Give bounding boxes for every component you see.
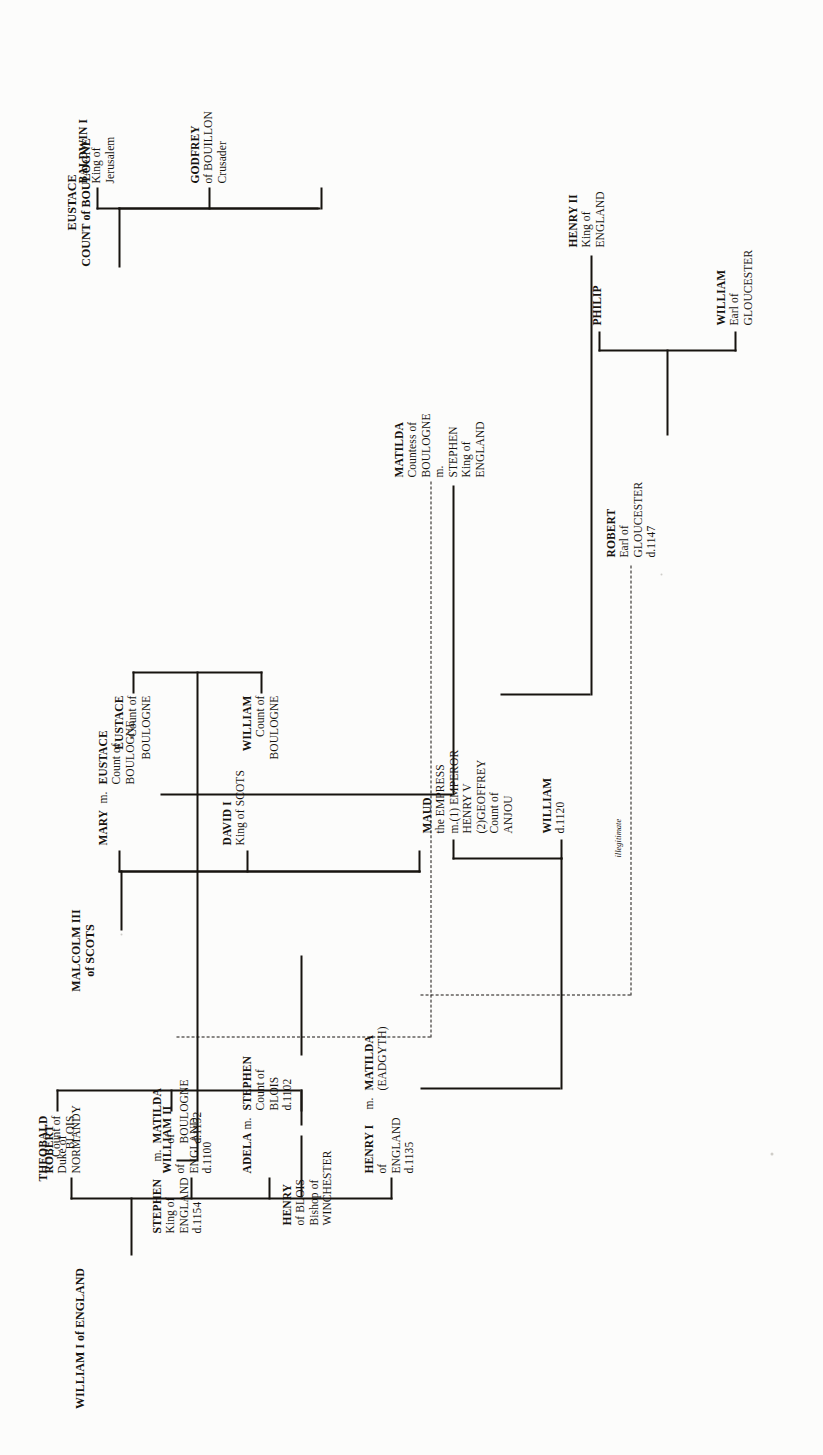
node-line3: m.(1) EMPEROR	[447, 693, 460, 833]
node-line2: Count of	[253, 990, 266, 1110]
node-line3: ENGLAND	[389, 1109, 402, 1173]
node-line2: Count of	[253, 695, 266, 805]
node-line3: Crusader	[215, 73, 228, 183]
connector	[246, 850, 248, 872]
node-line3: BOULOGNE	[139, 695, 152, 805]
node-matilda-eadgyth: MATILDA (EADGYTH)	[362, 994, 389, 1090]
node-maud-the-empress: MAUD the EMPRESS m.(1) EMPEROR HENRY V (…	[420, 693, 514, 833]
node-name: STEPHEN	[150, 1161, 163, 1233]
node-name: MARY	[96, 803, 109, 845]
node-name: HENRY	[280, 1097, 293, 1225]
connector	[118, 207, 120, 267]
node-line4: d.1102	[280, 990, 293, 1110]
node-name: ROBERT	[604, 447, 617, 557]
node-name: PHILIP	[590, 235, 603, 325]
node-name: STEPHEN	[240, 990, 253, 1110]
connector	[132, 671, 134, 693]
node-name: WILLIAM	[714, 215, 727, 325]
node-philip: PHILIP	[590, 235, 603, 325]
scan-speck	[120, 933, 122, 935]
node-line2: the EMPRESS	[433, 693, 446, 833]
marriage-m: m.	[96, 785, 109, 803]
node-line2: King of	[579, 137, 592, 247]
node-henry-i-of-england: HENRY I of ENGLAND d.1135	[362, 1109, 416, 1173]
stephen-matilda-descent-bar	[196, 671, 198, 1161]
node-line3: BOULOGNE	[419, 367, 432, 477]
marriage-m: m.	[362, 1091, 375, 1109]
scan-speck	[770, 1152, 773, 1155]
node-name: EUSTACE	[112, 695, 125, 805]
node-name: ADELA	[240, 1129, 253, 1173]
illegitimate-dashed-drop	[420, 994, 630, 995]
node-line2: of	[163, 1043, 176, 1143]
node-line7: ENGLAND	[473, 367, 486, 477]
node-line5: STEPHEN	[446, 367, 459, 477]
connector	[560, 839, 562, 859]
connector	[208, 187, 210, 209]
node-line7: ANJOU	[501, 693, 514, 833]
node-line6: Count of	[487, 693, 500, 833]
node-william-count-of-boulogne-son: WILLIAM Count of BOULOGNE	[240, 695, 280, 805]
connector	[418, 850, 420, 872]
node-name: GODFREY	[188, 73, 201, 183]
node-theobald-count-of-blois: THEOBALD Count of BLOIS	[36, 1115, 76, 1225]
node-line3: Bishop of	[307, 1097, 320, 1225]
title-text: WILLIAM I of ENGLAND	[72, 1268, 86, 1409]
node-name: BALDWIN I	[76, 73, 89, 183]
stephen-matilda-drop	[176, 1159, 196, 1161]
node-line2: of BLOIS	[293, 1097, 306, 1225]
marriage-m: m.	[150, 1143, 163, 1161]
marriage-m: m.	[240, 1111, 253, 1129]
node-godfrey-of-bouillon: GODFREY of BOUILLON Crusader	[188, 73, 228, 183]
node-line4: m.	[432, 367, 445, 477]
connector	[734, 331, 736, 351]
connector	[56, 1089, 58, 1111]
node-name: EUSTACE	[96, 688, 109, 784]
connector	[260, 671, 262, 693]
node-name: HENRY II	[566, 137, 579, 247]
maud-geoffrey-drop	[500, 693, 590, 695]
node-line2: Earl of	[617, 447, 630, 557]
node-line3: BOULOGNE	[177, 1043, 190, 1143]
illegitimate-label: illegitimate	[612, 818, 622, 857]
title-text-line1: MALCOLM III	[68, 875, 82, 1025]
node-name: MATILDA	[362, 994, 375, 1090]
henry-i-descent-drop	[420, 1087, 560, 1089]
title-william-i-of-england: WILLIAM I of ENGLAND	[72, 1233, 86, 1443]
node-line3: Jerusalem	[103, 73, 116, 183]
node-line2: Countess of	[405, 367, 418, 477]
marriage-symbol-adela-stephen: m.	[240, 1111, 253, 1129]
node-name: WILLIAM	[540, 743, 553, 833]
node-line3: ENGLAND	[593, 137, 606, 247]
henry-i-children-bar	[452, 857, 562, 859]
connector	[390, 1177, 392, 1199]
node-william-d1120: WILLIAM d.1120	[540, 743, 567, 833]
henry-i-descent-bar	[560, 857, 562, 1089]
node-line3: GLOUCESTER	[741, 215, 754, 325]
node-name: WILLIAM	[240, 695, 253, 805]
connector	[320, 187, 322, 209]
node-line3: BOULOGNE	[267, 695, 280, 805]
node-line2: of BOUILLON	[201, 73, 214, 183]
node-baldwin-i-king-of-jerusalem: BALDWIN I King of Jerusalem	[76, 73, 116, 183]
node-line2: King of	[163, 1161, 176, 1233]
marriage-symbol-mary-eustace: m.	[96, 785, 109, 803]
title-text-line2: of SCOTS	[82, 875, 96, 1025]
node-line2: (EADGYTH)	[375, 994, 388, 1090]
scan-speck	[660, 573, 662, 575]
connector	[118, 870, 420, 872]
node-name: THEOBALD	[36, 1115, 49, 1225]
node-line4: d.1154	[190, 1161, 203, 1233]
connector	[452, 839, 454, 859]
node-line3: BLOIS	[267, 990, 280, 1110]
node-line2: Count of	[49, 1115, 62, 1225]
gloucester-descent-bar	[666, 349, 668, 435]
same-person-dashed-link-top	[430, 481, 431, 1037]
connector	[130, 1197, 132, 1255]
node-line4: d.1147	[644, 447, 657, 557]
node-line3: GLOUCESTER	[631, 447, 644, 557]
marriage-symbol-henry-matilda: m.	[362, 1091, 375, 1109]
connector	[120, 870, 122, 930]
node-matilda-countess-of-boulogne: MATILDA Countess of BOULOGNE m. STEPHEN …	[392, 367, 486, 477]
node-name: MATILDA	[150, 1043, 163, 1143]
